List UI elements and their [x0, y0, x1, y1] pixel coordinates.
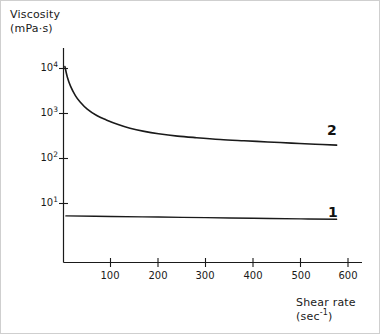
chart-figure: Viscosity (mPa·s) Shear rate (sec-1) 104… [0, 0, 382, 336]
curve-series-1 [66, 216, 337, 219]
axes-group [64, 48, 363, 263]
data-curves [65, 67, 337, 220]
curve-series-2 [65, 67, 337, 146]
plot-area [0, 0, 382, 336]
